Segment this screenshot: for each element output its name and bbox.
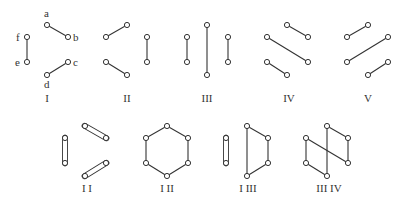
- vertex-node: [345, 135, 350, 140]
- vertex-node: [143, 135, 148, 140]
- vertex-node: [103, 135, 108, 140]
- group-label: V: [364, 92, 372, 104]
- edge-line: [327, 126, 348, 138]
- vertex-node: [103, 59, 108, 64]
- vertex-node: [265, 135, 270, 140]
- vertex-node: [385, 59, 390, 64]
- vertex-node: [365, 72, 370, 77]
- vertex-node: [144, 59, 149, 64]
- group-label: I: [45, 92, 49, 104]
- vertex-node: [44, 72, 49, 77]
- vertex-node: [324, 173, 329, 178]
- vertex-node: [82, 173, 87, 178]
- group-label: I II: [160, 182, 174, 194]
- vertex-node: [24, 34, 29, 39]
- group-V: V: [344, 22, 390, 104]
- group-label: I III: [239, 182, 257, 194]
- vertex-node: [204, 22, 209, 27]
- group-III: III: [184, 22, 230, 104]
- vertex-node: [103, 160, 108, 165]
- graph-diagram-canvas: abcdefIIIIIIIVVI II III IIIIII IV: [0, 0, 406, 202]
- vertex-node: [345, 160, 350, 165]
- vertex-node: [264, 59, 269, 64]
- vertex-node: [305, 34, 310, 39]
- vertex-node: [284, 72, 289, 77]
- edge-line: [47, 62, 68, 75]
- group-label: IV: [283, 92, 295, 104]
- vertex-node: [164, 173, 169, 178]
- vertex-node: [184, 59, 189, 64]
- group-III_IV: III IV: [303, 123, 350, 194]
- vertex-node: [44, 22, 49, 27]
- vertex-node: [62, 135, 67, 140]
- vertex-node: [265, 160, 270, 165]
- vertex-node: [244, 123, 249, 128]
- vertex-label: d: [44, 78, 50, 90]
- vertex-label: f: [16, 31, 20, 43]
- vertex-node: [62, 160, 67, 165]
- group-I_I: I I: [62, 122, 109, 194]
- diagram-groups: abcdefIIIIIIIVVI II III IIIIII IV: [15, 7, 391, 194]
- edge-line: [347, 25, 368, 37]
- vertex-label: b: [73, 31, 79, 43]
- vertex-node: [223, 135, 228, 140]
- vertex-node: [305, 59, 310, 64]
- vertex-label: c: [73, 56, 78, 68]
- vertex-node: [185, 160, 190, 165]
- group-I_III: I III: [223, 123, 270, 194]
- group-label: I I: [82, 182, 92, 194]
- group-label: III IV: [316, 182, 341, 194]
- vertex-node: [143, 160, 148, 165]
- vertex-node: [124, 72, 129, 77]
- group-label: III: [202, 92, 213, 104]
- group-II: II: [103, 22, 149, 104]
- edge-line: [146, 163, 167, 176]
- group-I_II: I II: [143, 123, 190, 194]
- vertex-node: [82, 123, 87, 128]
- edge-line: [167, 163, 188, 176]
- vertex-node: [385, 34, 390, 39]
- vertex-node: [164, 123, 169, 128]
- edge-line: [106, 25, 127, 37]
- edge-line: [167, 126, 188, 138]
- vertex-node: [244, 173, 249, 178]
- vertex-node: [344, 59, 349, 64]
- edge-line: [306, 163, 327, 176]
- edge-line: [146, 126, 167, 138]
- vertex-node: [184, 34, 189, 39]
- vertex-node: [303, 160, 308, 165]
- edge-line: [267, 62, 287, 75]
- group-label: II: [123, 92, 131, 104]
- edge-line: [267, 37, 308, 62]
- vertex-node: [124, 22, 129, 27]
- vertex-node: [204, 72, 209, 77]
- edge-line: [247, 163, 268, 176]
- edge-line: [368, 62, 388, 75]
- vertex-node: [65, 59, 70, 64]
- vertex-node: [103, 34, 108, 39]
- group-I: abcdefI: [15, 7, 79, 104]
- vertex-node: [225, 34, 230, 39]
- vertex-node: [324, 123, 329, 128]
- vertex-node: [65, 34, 70, 39]
- vertex-node: [225, 59, 230, 64]
- vertex-node: [303, 135, 308, 140]
- vertex-label: e: [15, 56, 20, 68]
- vertex-node: [144, 34, 149, 39]
- edge-line: [347, 37, 388, 62]
- edge-line: [247, 126, 268, 138]
- vertex-node: [365, 22, 370, 27]
- edge-line: [106, 62, 127, 75]
- vertex-node: [185, 135, 190, 140]
- group-IV: IV: [264, 22, 310, 104]
- vertex-node: [223, 160, 228, 165]
- vertex-node: [284, 22, 289, 27]
- vertex-label: a: [44, 7, 49, 19]
- vertex-node: [24, 59, 29, 64]
- vertex-node: [344, 34, 349, 39]
- edge-line: [47, 25, 68, 37]
- edge-line: [287, 25, 308, 37]
- vertex-node: [264, 34, 269, 39]
